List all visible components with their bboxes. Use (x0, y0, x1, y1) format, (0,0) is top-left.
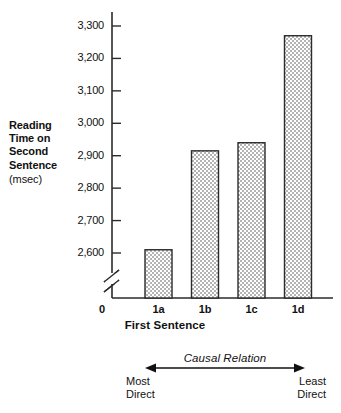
bars (145, 36, 312, 298)
causal-relation-caption: Causal Relation (140, 352, 310, 364)
causal-relation-arrow (145, 364, 305, 373)
bar-chart-figure: Reading Time on Second Sentence (msec) 2… (0, 0, 341, 413)
most-direct-line-1: Most (126, 375, 186, 388)
bar-1c (238, 143, 265, 298)
least-direct-label: Least Direct (264, 375, 326, 401)
least-direct-line-2: Direct (264, 388, 326, 401)
most-direct-line-2: Direct (126, 388, 186, 401)
x-tick-label-1c: 1c (232, 303, 272, 315)
x-tick-label-1b: 1b (185, 303, 225, 315)
least-direct-line-1: Least (264, 375, 326, 388)
bar-1a (145, 250, 172, 298)
bar-1d (285, 36, 312, 298)
x-axis-tick-labels: 1a1b1c1d (0, 303, 341, 319)
x-tick-label-1d: 1d (278, 303, 318, 315)
most-direct-label: Most Direct (126, 375, 186, 401)
bar-1b (192, 151, 219, 298)
x-axis-title: First Sentence (20, 319, 310, 331)
x-tick-label-1a: 1a (139, 303, 179, 315)
